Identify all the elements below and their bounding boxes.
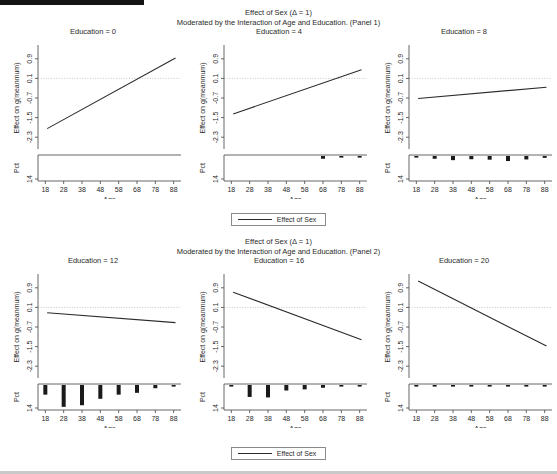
pct-axis-title: Pct — [199, 163, 206, 173]
effect-of-sex-line — [233, 292, 361, 340]
x-tick-label: 88 — [170, 415, 178, 422]
legend-line-swatch — [238, 219, 272, 220]
panel-1-title-line1: Effect of Sex (Δ = 1) — [0, 8, 557, 18]
x-tick-label: 68 — [504, 186, 512, 193]
pct-histogram-bar — [414, 156, 418, 158]
facet-education-8: Education = 80.90.1-0.7-1.5-2.3Effect on… — [371, 27, 557, 199]
x-axis-title: Age — [474, 425, 487, 428]
facet-education-0: Education = 00.90.1-0.7-1.5-2.3Effect on… — [0, 27, 186, 199]
y-tick-label: -0.7 — [212, 92, 219, 104]
pct-histogram-bar — [543, 385, 547, 387]
pct-histogram-bar — [248, 385, 252, 397]
panel-2: Effect of Sex (Δ = 1) Moderated by the I… — [0, 237, 557, 428]
pct-tick-label: 14 — [26, 175, 33, 183]
y-tick-label: 0.1 — [397, 302, 404, 312]
pct-histogram-bar — [524, 385, 528, 387]
x-tick-label: 38 — [78, 186, 86, 193]
pct-histogram-bar — [321, 156, 325, 159]
x-tick-label: 38 — [449, 415, 457, 422]
pct-histogram-bar — [358, 156, 362, 158]
x-tick-label: 18 — [41, 415, 49, 422]
y-axis-title: Effect on g(meanmum) — [13, 62, 21, 133]
x-tick-label: 38 — [449, 186, 457, 193]
x-tick-label: 28 — [431, 186, 439, 193]
facet-plot: 0.90.1-0.7-1.5-2.3Effect on g(meanmum)Pc… — [371, 264, 557, 428]
y-tick-label: -1.5 — [26, 111, 33, 123]
y-axis-title: Effect on g(meanmum) — [384, 291, 392, 362]
pct-histogram-bar — [506, 385, 510, 387]
legend-box: Effect of Sex — [231, 213, 327, 226]
pct-tick-label: 14 — [212, 175, 219, 183]
x-tick-label: 48 — [467, 186, 475, 193]
y-tick-label: 0.9 — [397, 54, 404, 64]
x-axis-title: Age — [103, 196, 116, 199]
x-tick-label: 68 — [319, 186, 327, 193]
pct-histogram-bar — [62, 385, 66, 407]
x-tick-label: 38 — [264, 415, 272, 422]
pct-histogram-bar — [266, 385, 270, 397]
facet-plot: 0.90.1-0.7-1.5-2.3Effect on g(meanmum)Pc… — [0, 35, 186, 199]
x-tick-label: 28 — [431, 415, 439, 422]
x-tick-label: 58 — [301, 415, 309, 422]
effect-of-sex-line — [233, 70, 361, 114]
panel-2-title-line2: Moderated by the Interaction of Age and … — [0, 247, 557, 257]
y-tick-label: 0.9 — [212, 54, 219, 64]
x-tick-label: 18 — [227, 186, 235, 193]
legend-box: Effect of Sex — [231, 447, 327, 460]
x-tick-label: 58 — [115, 186, 123, 193]
y-axis-title: Effect on g(meanmum) — [384, 62, 392, 133]
y-axis-title: Effect on g(meanmum) — [13, 291, 21, 362]
pct-histogram-bar — [135, 385, 139, 393]
pct-axis-title: Pct — [13, 163, 20, 173]
pct-histogram-bar — [488, 385, 492, 387]
effect-of-sex-line — [418, 281, 546, 346]
y-tick-label: 0.9 — [212, 283, 219, 293]
x-tick-label: 48 — [467, 415, 475, 422]
y-tick-label: 0.1 — [212, 73, 219, 83]
y-tick-label: -0.7 — [26, 321, 33, 333]
x-tick-label: 48 — [96, 186, 104, 193]
y-tick-label: -1.5 — [397, 340, 404, 352]
x-axis-title: Age — [474, 196, 487, 199]
x-tick-label: 88 — [541, 186, 549, 193]
x-tick-label: 18 — [227, 415, 235, 422]
pct-histogram-bar — [469, 385, 473, 387]
x-tick-label: 78 — [522, 186, 530, 193]
y-tick-label: -2.3 — [26, 131, 33, 143]
legend-label: Effect of Sex — [277, 450, 317, 457]
facet-education-16: Education = 160.90.1-0.7-1.5-2.3Effect o… — [186, 256, 372, 428]
pct-tick-label: 14 — [26, 404, 33, 412]
y-axis-title: Effect on g(meanmum) — [199, 62, 207, 133]
y-tick-label: -2.3 — [26, 360, 33, 372]
legend-line-swatch — [238, 453, 272, 454]
facet-plot: 0.90.1-0.7-1.5-2.3Effect on g(meanmum)Pc… — [371, 35, 557, 199]
pct-histogram-bar — [339, 385, 343, 387]
y-tick-label: -0.7 — [212, 321, 219, 333]
x-tick-label: 28 — [246, 186, 254, 193]
facet-education-20: Education = 200.90.1-0.7-1.5-2.3Effect o… — [371, 256, 557, 428]
scan-edge-top — [0, 0, 144, 5]
x-tick-label: 78 — [337, 186, 345, 193]
pct-histogram-bar — [172, 385, 176, 387]
x-tick-label: 78 — [337, 415, 345, 422]
pct-histogram-bar — [506, 156, 510, 161]
x-tick-label: 68 — [319, 415, 327, 422]
y-tick-label: 0.1 — [212, 302, 219, 312]
y-tick-label: -0.7 — [397, 92, 404, 104]
facet-education-12: Education = 120.90.1-0.7-1.5-2.3Effect o… — [0, 256, 186, 428]
panel-1: Effect of Sex (Δ = 1) Moderated by the I… — [0, 8, 557, 199]
pct-histogram-bar — [358, 385, 362, 387]
pct-histogram-bar — [43, 385, 47, 395]
pct-histogram-bar — [414, 385, 418, 387]
y-tick-label: -1.5 — [212, 340, 219, 352]
x-tick-label: 58 — [486, 186, 494, 193]
y-tick-label: -0.7 — [397, 321, 404, 333]
effect-of-sex-line — [47, 313, 175, 323]
y-tick-label: 0.1 — [26, 73, 33, 83]
x-axis-title: Age — [289, 425, 302, 428]
panel-2-title-line1: Effect of Sex (Δ = 1) — [0, 237, 557, 247]
x-tick-label: 18 — [412, 186, 420, 193]
x-tick-label: 38 — [264, 186, 272, 193]
pct-histogram-bar — [321, 385, 325, 388]
pct-histogram-bar — [451, 156, 455, 160]
